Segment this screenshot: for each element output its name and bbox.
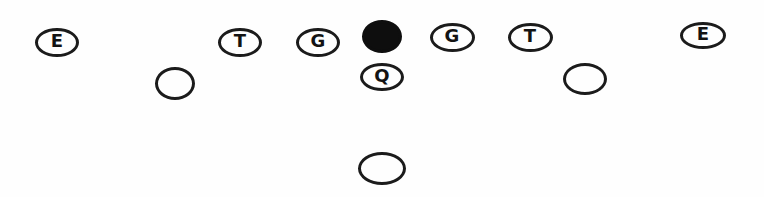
player-right-end-label: E [697, 25, 709, 43]
player-fullback [358, 152, 406, 185]
player-right-halfback [563, 63, 607, 95]
player-right-guard-label: G [445, 27, 460, 45]
player-left-tackle-label: T [234, 32, 246, 50]
player-left-end-label: E [51, 32, 63, 50]
player-right-guard: G [430, 23, 475, 52]
player-left-tackle: T [218, 28, 262, 57]
player-quarterback-label: Q [374, 67, 389, 85]
player-right-tackle: T [508, 23, 553, 52]
player-left-guard-label: G [311, 32, 326, 50]
player-left-halfback [155, 67, 195, 100]
player-right-end: E [680, 22, 726, 49]
player-right-tackle-label: T [524, 27, 536, 45]
football-formation-diagram: ETGGTEQ [0, 0, 764, 197]
player-left-guard: G [296, 28, 340, 57]
player-quarterback: Q [360, 63, 404, 91]
player-center [362, 20, 402, 53]
player-left-end: E [35, 28, 79, 57]
